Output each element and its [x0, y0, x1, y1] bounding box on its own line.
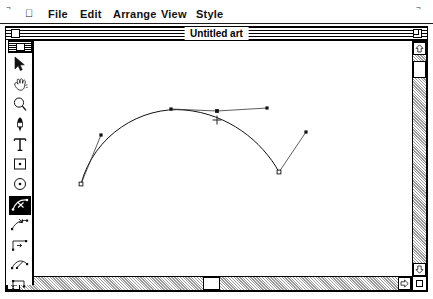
handle-start-out[interactable] [81, 135, 101, 184]
handle-mid-out[interactable] [217, 108, 267, 111]
horizontal-scrollbar[interactable] [6, 276, 412, 291]
menu-arrange[interactable]: Arrange [113, 7, 157, 21]
screen-corner-tick-left: ¬ [6, 4, 11, 12]
tool-bezier-scissors[interactable] [9, 196, 31, 215]
horizontal-scroll-thumb[interactable] [203, 277, 220, 290]
tool-add-anchor[interactable] [9, 216, 31, 235]
drawing-canvas[interactable] [6, 41, 412, 277]
scroll-right-arrow-icon[interactable] [398, 277, 411, 290]
menu-view[interactable]: View [161, 7, 187, 21]
tool-corner-path[interactable] [9, 276, 31, 295]
close-box[interactable] [11, 29, 20, 38]
tool-arrow[interactable] [9, 56, 31, 75]
tool-ellipse[interactable] [9, 176, 31, 195]
bezier-curve[interactable] [81, 110, 279, 184]
window-title-bar[interactable]: Untitled art [6, 27, 427, 41]
handle-start-out-knob[interactable] [99, 133, 102, 136]
bezier-path-artwork [6, 41, 412, 277]
control-handle-lines [81, 108, 306, 184]
tool-pen[interactable] [9, 116, 31, 135]
zoom-box[interactable] [413, 29, 422, 38]
handle-end-out[interactable] [279, 132, 306, 172]
anchor-points[interactable] [79, 106, 308, 186]
anchor-end[interactable] [277, 170, 281, 174]
menu-bar:  File Edit Arrange View Style [0, 6, 433, 24]
handle-mid-out-knob[interactable] [265, 106, 268, 109]
scroll-down-arrow-icon[interactable] [413, 263, 426, 276]
window-grow-box[interactable] [412, 276, 427, 291]
fill-stroke-swatch[interactable] [8, 40, 32, 53]
app-screen:  File Edit Arrange View Style ¬ ¬ Untit… [0, 0, 433, 299]
anchor-middle[interactable] [215, 109, 219, 113]
tool-split-path[interactable] [9, 256, 31, 275]
tool-hand[interactable] [9, 76, 31, 95]
tool-convert-anchor[interactable] [9, 236, 31, 255]
document-window: Untitled art [5, 26, 428, 292]
vertical-scrollbar[interactable] [412, 41, 427, 277]
vertical-scroll-thumb[interactable] [413, 61, 426, 78]
screen-corner-tick-right: ¬ [416, 4, 421, 12]
scroll-up-arrow-icon[interactable] [413, 42, 426, 55]
menu-file[interactable]: File [48, 7, 68, 21]
apple-menu-icon[interactable]:  [25, 8, 34, 19]
tool-palette [6, 40, 34, 285]
tool-rectangle[interactable] [9, 156, 31, 175]
window-title: Untitled art [184, 27, 249, 40]
handle-mid-in-knob[interactable] [169, 107, 172, 110]
handle-end-out-knob[interactable] [304, 130, 307, 133]
anchor-start[interactable] [79, 182, 83, 186]
tool-zoom[interactable] [9, 96, 31, 115]
menu-style[interactable]: Style [196, 7, 223, 21]
tool-text[interactable] [9, 136, 31, 155]
menu-edit[interactable]: Edit [80, 7, 102, 21]
